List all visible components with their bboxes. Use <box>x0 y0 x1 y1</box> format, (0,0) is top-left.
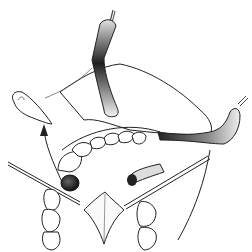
surgical-illustration <box>0 0 252 252</box>
right-retractor-rod-2 <box>240 98 248 106</box>
right-instrument-2 <box>126 159 210 209</box>
excised-tissue <box>12 92 52 124</box>
jaw-contour <box>178 150 210 240</box>
right-retractor-rod <box>238 96 246 104</box>
dark-nodule <box>61 175 79 191</box>
upper-dental-arch <box>58 127 160 172</box>
removal-arrow <box>44 130 62 182</box>
lower-right-teeth <box>137 201 156 250</box>
illustration-canvas <box>0 0 252 252</box>
arrow-head-icon <box>40 124 48 136</box>
vessel-roll <box>127 164 164 186</box>
soft-palate-flap <box>60 64 212 135</box>
lower-left-teeth <box>42 189 60 250</box>
